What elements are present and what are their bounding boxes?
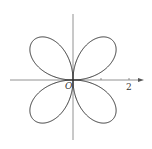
x-axis-arrow-icon — [138, 78, 144, 82]
x-tick-label-2: 2 — [126, 82, 132, 92]
origin-label: O — [65, 81, 73, 91]
polar-rose-plot: O 2 — [0, 0, 152, 149]
